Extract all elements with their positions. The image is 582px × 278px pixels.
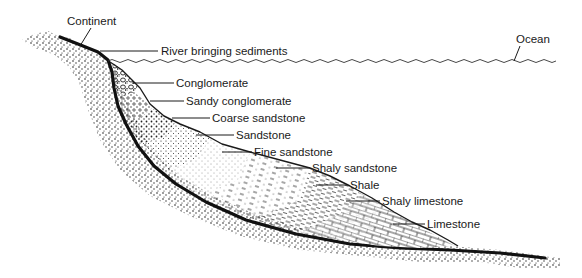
label-limestone: Limestone: [427, 218, 480, 230]
label-shaly-sandstone: Shaly sandstone: [312, 162, 397, 174]
label-shaly-limestone: Shaly limestone: [382, 195, 463, 207]
label-coarse-sandstone: Coarse sandstone: [212, 112, 305, 124]
sediment-facies-diagram: Continent River bringing sediments Ocean…: [0, 0, 582, 278]
sea-surface-line: [108, 60, 556, 63]
label-river: River bringing sediments: [161, 45, 288, 57]
label-continent: Continent: [67, 15, 117, 27]
label-sandstone: Sandstone: [236, 129, 291, 141]
label-conglomerate: Conglomerate: [176, 77, 248, 89]
label-shale: Shale: [350, 179, 379, 191]
label-ocean: Ocean: [516, 33, 550, 45]
label-sandy-conglomerate: Sandy conglomerate: [186, 95, 291, 107]
label-fine-sandstone: Fine sandstone: [254, 146, 333, 158]
